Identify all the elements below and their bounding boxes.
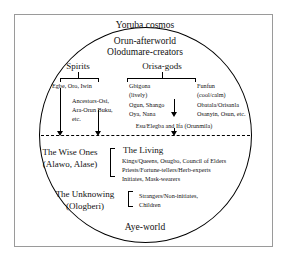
spirits-heading: Spirits (66, 61, 90, 72)
unknowing-line-1: (Ologberi) (66, 201, 104, 212)
orisa-gods-heading: Orisa-gods (142, 61, 182, 72)
spirits-bracket-right-tick (98, 78, 99, 82)
diagram-canvas: Yoruba cosmos Orun-afterworld Olodumare-… (0, 0, 290, 262)
unknowing-bracket (128, 191, 133, 207)
spirits-left-descender (60, 88, 61, 132)
the-living-heading: The Living (123, 145, 163, 156)
orisa-cool-name: Funfun (197, 82, 215, 89)
orisa-bracket-left-tick (127, 78, 128, 82)
orisa-cool-deities-1: Osanyin, Osun, etc. (197, 110, 246, 117)
spirits-item-1: Ancestors-Osi, (72, 97, 109, 104)
orun-aye-boundary (41, 135, 250, 136)
the-living-bracket (110, 148, 115, 177)
orisa-cool-deities-0: Obatala/Orisanla (197, 101, 239, 108)
spirits-item-3: etc. (72, 115, 81, 122)
diagram-title: Yoruba cosmos (116, 20, 174, 31)
aye-world-label: Aye-world (125, 222, 165, 233)
the-living-item-0: Kings/Queens, Osugbo, Council of Elders (122, 157, 226, 164)
orisa-bracket-bar (127, 78, 195, 79)
orisa-bracket-right-tick (195, 78, 196, 82)
orisa-mediator-arrowhead (171, 112, 177, 117)
olodumare-creators-label: Olodumare-creators (107, 47, 183, 58)
spirits-right-descender (98, 110, 99, 132)
unknowing-item-0: Strangers/Non-initiates, (139, 192, 198, 199)
orisa-hot-temper: (lively) (129, 91, 147, 98)
orisa-hot-deities-1: Oya, Nana (129, 110, 155, 117)
wise-ones-line-0: The Wise Ones (43, 147, 98, 158)
orun-afterworld-label: Orun-afterworld (114, 36, 176, 47)
orisa-hot-deities-0: Ogun, Shango (129, 101, 164, 108)
orisa-hot-name: Gbigona (129, 82, 150, 89)
spirits-item-2: Ara-Orun Buku, (72, 106, 113, 113)
orisa-mediator-connector (174, 99, 175, 113)
orisa-cool-temper: (cool/calm) (197, 91, 226, 98)
spirits-bracket-bar (60, 78, 98, 79)
wise-ones-line-1: (Alawo, Alase) (43, 159, 97, 170)
the-living-item-2: Initiates, Mask-wearers (122, 175, 180, 182)
spirits-item-0: Egbe, Oro, Iwin (52, 82, 92, 89)
unknowing-item-1: Children (139, 201, 161, 208)
the-living-item-1: Priests/Fortune-tellers/Herb-experts (122, 166, 211, 173)
unknowing-line-0: The Unknowing (56, 189, 115, 200)
